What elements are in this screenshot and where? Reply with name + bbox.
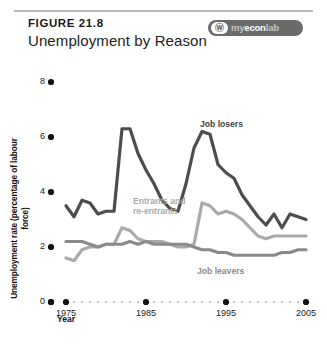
x-tick-dot-minor [209, 301, 211, 303]
x-tick-dot-minor [73, 301, 75, 303]
wordmark-econ: econ [244, 22, 265, 33]
x-tick-label: 2005 [289, 308, 323, 318]
x-tick-dot-minor [201, 301, 203, 303]
x-tick-dot-minor [81, 301, 83, 303]
x-tick-dot-minor [233, 301, 235, 303]
x-axis-title: Year [57, 314, 75, 324]
header-divider [14, 10, 313, 12]
wordmark-lab: lab [266, 22, 279, 33]
figure-number: FIGURE 21.8 [28, 17, 104, 29]
y-tick-dot [48, 79, 54, 85]
x-tick-dot-minor [177, 301, 179, 303]
y-tick-label: 4 [31, 186, 45, 196]
y-axis-ticks [48, 79, 54, 305]
figure-card: FIGURE 21.8 Unemployment by Reason Ⓦ mye… [0, 0, 327, 348]
x-tick-dot-minor [241, 301, 243, 303]
x-tick-dot-minor [153, 301, 155, 303]
x-tick-dot-minor [137, 301, 139, 303]
y-tick-label: 6 [31, 131, 45, 141]
x-tick-label: 1985 [129, 308, 163, 318]
series-label-job-losers: Job losers [200, 119, 243, 129]
x-tick-dot-major [303, 299, 309, 305]
x-tick-dot-minor [249, 301, 251, 303]
x-axis-minor-ticks [73, 301, 299, 303]
x-tick-dot-minor [169, 301, 171, 303]
chart-plot-area: Unemployment rate (percentage of labour … [0, 58, 327, 348]
x-tick-dot-major [223, 299, 229, 305]
x-tick-dot-minor [185, 301, 187, 303]
x-tick-dot-minor [161, 301, 163, 303]
wordmark-my: my [231, 22, 244, 33]
y-tick-label: 2 [31, 241, 45, 251]
x-tick-dot-minor [281, 301, 283, 303]
series-label-job-leavers: Job leavers [197, 266, 244, 276]
page-title: Unemployment by Reason [28, 32, 207, 49]
x-tick-dot-minor [105, 301, 107, 303]
figure-header: FIGURE 21.8 Unemployment by Reason Ⓦ mye… [0, 0, 327, 58]
myeconlab-wordmark: myeconlab [231, 23, 279, 33]
x-tick-dot-major [143, 299, 149, 305]
x-tick-dot-minor [89, 301, 91, 303]
y-tick-dot [48, 134, 54, 140]
x-tick-dot-minor [97, 301, 99, 303]
x-tick-label: 1995 [209, 308, 243, 318]
myeconlab-badge[interactable]: Ⓦ myeconlab [208, 20, 303, 36]
x-tick-dot-minor [273, 301, 275, 303]
x-tick-dot-minor [217, 301, 219, 303]
x-tick-dot-major [63, 299, 69, 305]
x-tick-dot-minor [257, 301, 259, 303]
x-tick-dot-minor [113, 301, 115, 303]
series-label-entrants-line1: Entrants and [133, 196, 186, 206]
chart-series-group [66, 129, 306, 261]
y-tick-label: 0 [31, 296, 45, 306]
origin-dot [48, 299, 54, 305]
x-tick-dot-minor [121, 301, 123, 303]
y-tick-label: 8 [31, 76, 45, 86]
y-tick-dot [48, 244, 54, 250]
series-label-entrants-line2: re-entrants [133, 206, 178, 216]
x-tick-dot-minor [265, 301, 267, 303]
x-tick-dot-minor [193, 301, 195, 303]
myeconlab-mark-icon: Ⓦ [211, 22, 228, 34]
series-line-job-losers [66, 129, 306, 228]
y-tick-dot [48, 189, 54, 195]
x-tick-dot-minor [297, 301, 299, 303]
x-tick-dot-minor [129, 301, 131, 303]
x-tick-dot-minor [289, 301, 291, 303]
series-label-entrants: Entrants and re-entrants [133, 196, 186, 216]
